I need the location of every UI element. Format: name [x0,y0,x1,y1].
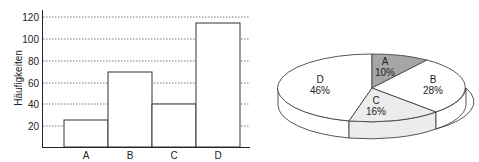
bar-a [64,120,108,147]
y-tick-120: 120 [22,12,39,23]
pie-chart: A 10% B 28% C 16% D 46% [278,54,474,139]
x-label-b: B [127,150,134,161]
pie-label-b: B [430,74,437,85]
x-label-a: A [83,150,90,161]
pie-percent-d: 46% [310,85,330,96]
bar-d [196,23,240,147]
y-tick-60: 60 [28,78,40,89]
y-tick-100: 100 [22,34,39,45]
x-tick-labels: A B C D [83,150,222,161]
pie-label-c: C [372,95,379,106]
pie-percent-c: 16% [366,106,386,117]
pie-percent-b: 28% [423,85,443,96]
x-label-c: C [170,150,177,161]
pie-label-a: A [382,56,389,67]
bar-c [152,104,196,147]
pie-percent-a: 10% [375,67,395,78]
y-tick-40: 40 [28,99,40,110]
y-axis-label: Häufigkeiten [13,50,24,106]
y-tick-80: 80 [28,56,40,67]
bar-chart: 120 100 80 60 40 20 Häufigkeiten A B C D [13,10,250,161]
pie-label-d: D [316,74,323,85]
x-label-d: D [214,150,221,161]
bar-b [108,72,152,147]
bars [64,23,240,147]
figure: 120 100 80 60 40 20 Häufigkeiten A B C D [0,0,479,162]
y-tick-labels: 120 100 80 60 40 20 [22,12,39,132]
y-tick-20: 20 [28,121,40,132]
